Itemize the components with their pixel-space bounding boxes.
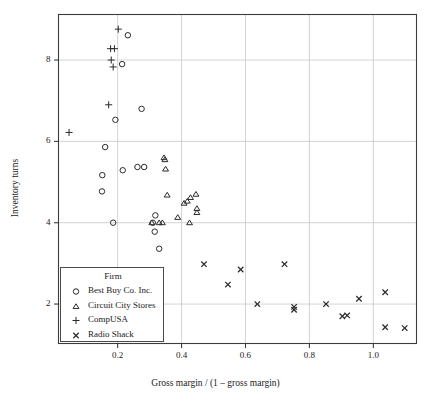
legend-glyph-cross [73,332,78,337]
x-axis-title: Gross margin / (1 – gross margin) [0,378,431,388]
legend-circle-icon [69,284,83,298]
data-point-triangle [163,166,169,171]
series-triangle [149,155,200,225]
data-point-cross [340,314,345,319]
data-point-plus [110,63,117,70]
series-plus [66,26,122,136]
legend-entry-triangle: Circuit City Stores [69,299,165,313]
legend-title: Firm [61,271,165,281]
data-point-plus [105,101,112,108]
legend-label: Radio Shack [88,329,134,339]
data-point-circle [135,164,140,169]
x-tick-label: 0.6 [225,350,265,360]
data-point-circle [139,106,144,111]
legend-plus-icon [69,313,83,327]
data-point-cross [291,307,296,312]
legend-cross-icon [69,328,83,342]
legend-glyph-triangle [73,303,79,308]
y-tick-label: 4 [21,217,51,227]
data-point-cross [356,296,361,301]
y-tick-label: 6 [21,135,51,145]
series-circle [99,33,162,252]
legend: Firm Best Buy Co. Inc.Circuit City Store… [60,267,164,342]
data-point-triangle [188,195,194,200]
data-point-cross [282,261,287,266]
legend-entry-circle: Best Buy Co. Inc. [69,284,165,298]
x-tick-label: 0.8 [289,350,329,360]
data-point-cross [225,282,230,287]
legend-label: Best Buy Co. Inc. [88,285,152,295]
data-point-cross [402,325,407,330]
y-tick-label: 8 [21,54,51,64]
plot-canvas [0,0,431,407]
data-point-circle [119,61,124,66]
data-point-cross [344,313,349,318]
data-point-plus [111,45,118,52]
data-point-plus [108,57,115,64]
legend-label: Circuit City Stores [88,300,156,310]
data-point-plus [115,26,122,33]
x-tick-label: 0.4 [162,350,202,360]
data-point-circle [100,172,105,177]
data-point-circle [153,213,158,218]
x-tick-label: 1.0 [353,350,393,360]
data-point-cross [201,261,206,266]
data-point-cross [382,290,387,295]
legend-label: CompUSA [88,314,128,324]
legend-entry-plus: CompUSA [69,313,165,327]
data-point-circle [125,33,130,38]
legend-triangle-icon [69,299,83,313]
data-point-triangle [193,192,199,197]
legend-entry-cross: Radio Shack [69,328,165,342]
data-point-circle [152,229,157,234]
y-axis-title: Inventory turns [10,128,20,248]
data-point-circle [102,144,107,149]
data-point-circle [141,164,146,169]
series-cross [201,261,407,330]
data-point-triangle [164,192,170,197]
y-tick-label: 2 [21,298,51,308]
data-point-triangle [175,215,181,220]
data-point-plus [66,129,73,136]
data-point-cross [291,304,296,309]
data-point-cross [382,325,387,330]
scatter-plot-figure: Gross margin / (1 – gross margin) Invent… [0,0,431,407]
data-point-circle [99,189,104,194]
legend-glyph-circle [73,289,78,294]
x-tick-label: 0.2 [98,350,138,360]
data-point-circle [120,168,125,173]
data-point-circle [156,246,161,251]
data-point-cross [238,267,243,272]
legend-glyph-plus [72,317,79,324]
